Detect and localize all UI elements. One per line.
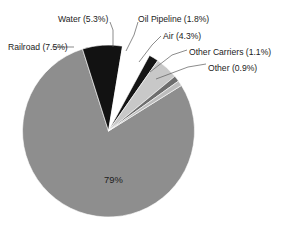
railroad-label: Railroad (7.5%)	[8, 42, 68, 52]
other-carriers-label: Other Carriers (1.1%)	[189, 47, 271, 57]
oil-pipeline-leader-line	[126, 22, 138, 51]
other-label: Other (0.9%)	[208, 63, 257, 73]
water-leader-line	[110, 22, 113, 47]
pie-slices-group	[22, 45, 194, 217]
pie-chart-canvas: 79%Railroad (7.5%)Water (5.3%)Oil Pipeli…	[0, 0, 281, 234]
pie-chart-figure: 79%Railroad (7.5%)Water (5.3%)Oil Pipeli…	[0, 0, 281, 234]
air-label: Air (4.3%)	[163, 31, 201, 41]
oil-pipeline-label: Oil Pipeline (1.8%)	[138, 14, 209, 24]
truck-label: 79%	[104, 174, 123, 185]
water-label: Water (5.3%)	[58, 14, 108, 24]
